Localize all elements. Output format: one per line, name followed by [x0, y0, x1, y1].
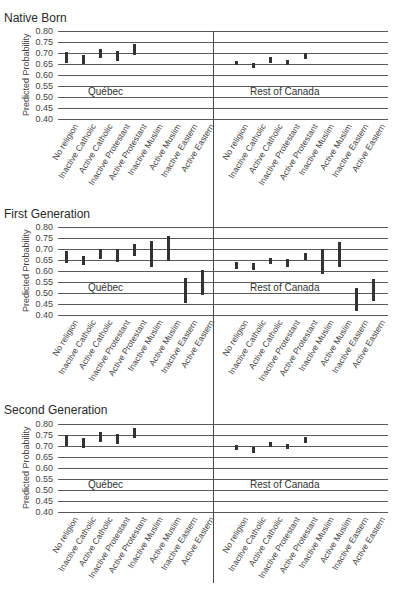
gridline — [58, 468, 388, 469]
region-divider — [213, 31, 214, 583]
error-bar — [133, 44, 136, 55]
region-label: Rest of Canada — [250, 479, 320, 490]
gridline — [58, 271, 388, 272]
region-label: Rest of Canada — [250, 86, 320, 97]
error-bar — [65, 435, 68, 446]
error-bar — [82, 438, 85, 448]
panel-title: Second Generation — [4, 403, 107, 417]
gridline — [58, 490, 388, 491]
gridline — [58, 424, 388, 425]
region-label: Québec — [88, 282, 123, 293]
y-axis-label: Predicted Probability — [21, 426, 31, 509]
y-axis-label: Predicted Probability — [21, 33, 31, 116]
region-label: Québec — [88, 479, 123, 490]
error-bar — [82, 55, 85, 64]
gridline — [58, 227, 388, 228]
gridline — [58, 108, 388, 109]
error-bar — [167, 236, 170, 261]
error-bar — [355, 288, 358, 311]
gridline — [58, 315, 388, 316]
error-bar — [99, 432, 102, 442]
error-bar — [286, 60, 289, 66]
panel-title: First Generation — [4, 207, 90, 221]
error-bar — [338, 242, 341, 266]
error-bar — [99, 49, 102, 59]
gridline — [58, 501, 388, 502]
gridline — [58, 53, 388, 54]
error-bar — [99, 249, 102, 259]
error-bar — [235, 445, 238, 451]
error-bar — [150, 241, 153, 266]
error-bar — [286, 259, 289, 267]
error-bar — [133, 428, 136, 438]
error-bar — [321, 249, 324, 274]
error-bar — [133, 244, 136, 256]
error-bar — [201, 270, 204, 295]
error-bar — [269, 258, 272, 265]
gridline — [58, 42, 388, 43]
error-bar — [252, 447, 255, 453]
error-bar — [269, 442, 272, 448]
error-bar — [235, 262, 238, 269]
gridline — [58, 293, 388, 294]
error-bar — [304, 253, 307, 260]
region-label: Rest of Canada — [250, 282, 320, 293]
error-bar — [252, 63, 255, 69]
error-bar — [372, 279, 375, 301]
gridline — [58, 97, 388, 98]
error-bar — [65, 251, 68, 263]
gridline — [58, 31, 388, 32]
gridline — [58, 75, 388, 76]
gridline — [58, 435, 388, 436]
error-bar — [65, 52, 68, 63]
error-bar — [116, 249, 119, 262]
error-bar — [82, 256, 85, 266]
error-bar — [304, 53, 307, 59]
error-bar — [286, 444, 289, 450]
gridline — [58, 457, 388, 458]
gridline — [58, 446, 388, 447]
error-bar — [116, 434, 119, 444]
error-bar — [116, 51, 119, 61]
error-bar — [184, 278, 187, 303]
gridline — [58, 119, 388, 120]
gridline — [58, 304, 388, 305]
panel-title: Native Born — [4, 11, 67, 25]
error-bar — [269, 57, 272, 63]
error-bar — [235, 61, 238, 65]
gridline — [58, 512, 388, 513]
gridline — [58, 238, 388, 239]
error-bar — [252, 263, 255, 270]
error-bar — [304, 437, 307, 443]
region-label: Québec — [88, 86, 123, 97]
y-axis-label: Predicted Probability — [21, 229, 31, 312]
gridline — [58, 64, 388, 65]
